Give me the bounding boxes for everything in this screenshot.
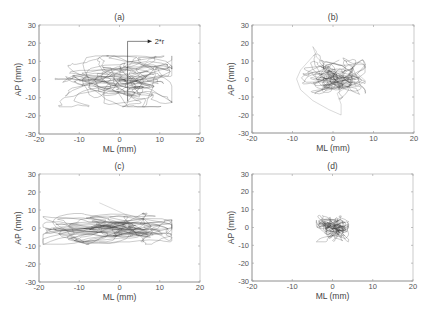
x-tick-label: 0 <box>330 282 334 291</box>
x-axis-label: ML (mm) <box>103 144 137 154</box>
x-tick-label: 10 <box>369 134 377 143</box>
y-tick-label: 30 <box>241 21 249 30</box>
x-tick-label: -10 <box>287 282 298 291</box>
x-tick-label: -10 <box>287 134 298 143</box>
panel-title: (d) <box>327 161 338 171</box>
x-axis-label: ML (mm) <box>103 292 137 302</box>
x-tick-label: 0 <box>331 134 335 143</box>
panel-title: (c) <box>115 161 125 171</box>
cop-trace <box>301 54 365 100</box>
x-tick-label: -10 <box>74 283 85 292</box>
x-tick-label: 20 <box>196 135 204 144</box>
cop-excursion <box>99 203 131 217</box>
y-tick-label: -20 <box>238 111 249 120</box>
panel-b: -30-20-100102030-20-1001020(b)ML (mm)AP … <box>226 12 418 153</box>
y-axis-label: AP (mm) <box>226 211 236 245</box>
y-tick-label: 20 <box>241 39 249 48</box>
x-tick-label: 0 <box>117 135 121 144</box>
y-tick-label: 20 <box>28 188 36 197</box>
panel-title: (a) <box>114 12 125 22</box>
y-tick-label: 20 <box>241 187 249 196</box>
x-axis-label: ML (mm) <box>316 143 350 153</box>
y-tick-label: -10 <box>25 93 36 102</box>
cop-trace <box>43 213 172 244</box>
y-tick-label: 0 <box>245 75 249 84</box>
y-tick-label: 0 <box>32 224 36 233</box>
y-tick-label: 10 <box>241 57 249 66</box>
y-tick-label: 30 <box>241 170 249 179</box>
figure: -30-20-100102030-20-1001020(a)ML (mm)AP … <box>0 0 432 312</box>
plot-frame <box>252 174 413 281</box>
x-tick-label: 10 <box>369 282 377 291</box>
x-tick-label: 0 <box>117 283 121 292</box>
y-tick-label: 10 <box>241 205 249 214</box>
y-tick-label: -10 <box>25 242 36 251</box>
panel-title: (b) <box>328 12 339 22</box>
y-tick-label: 30 <box>28 170 36 179</box>
panel-d: -30-20-100102030-20-1001020(d)ML (mm)AP … <box>226 161 417 301</box>
y-tick-label: -20 <box>25 260 36 269</box>
x-tick-label: -20 <box>247 134 258 143</box>
y-tick-label: 10 <box>28 57 36 66</box>
y-axis-label: AP (mm) <box>226 62 236 96</box>
x-tick-label: 20 <box>196 283 204 292</box>
x-tick-label: -20 <box>34 135 45 144</box>
y-tick-label: 0 <box>32 75 36 84</box>
y-axis-label: AP (mm) <box>13 63 23 97</box>
y-axis-label: AP (mm) <box>13 211 23 245</box>
cop-excursion <box>297 47 366 115</box>
cop-trace <box>316 215 348 242</box>
x-tick-label: 10 <box>156 283 164 292</box>
x-axis-label: ML (mm) <box>316 291 350 301</box>
y-tick-label: 0 <box>245 223 249 232</box>
cop-trace <box>55 56 172 107</box>
y-tick-label: 30 <box>28 21 36 30</box>
y-tick-label: 20 <box>28 39 36 48</box>
y-tick-label: -20 <box>238 259 249 268</box>
panel-a: -30-20-100102030-20-1001020(a)ML (mm)AP … <box>13 12 204 154</box>
y-tick-label: -20 <box>25 111 36 120</box>
x-tick-label: 10 <box>156 135 164 144</box>
y-tick-label: -10 <box>238 241 249 250</box>
y-tick-label: -10 <box>238 93 249 102</box>
arrow-right-icon <box>148 40 152 44</box>
x-tick-label: -20 <box>34 283 45 292</box>
y-tick-label: 10 <box>28 206 36 215</box>
x-tick-label: -20 <box>247 282 258 291</box>
x-tick-label: -10 <box>74 135 85 144</box>
annotation-label: 2*r <box>155 37 165 46</box>
panel-c: -30-20-100102030-20-1001020(c)ML (mm)AP … <box>13 161 204 302</box>
x-tick-label: 20 <box>410 134 418 143</box>
x-tick-label: 20 <box>409 282 417 291</box>
